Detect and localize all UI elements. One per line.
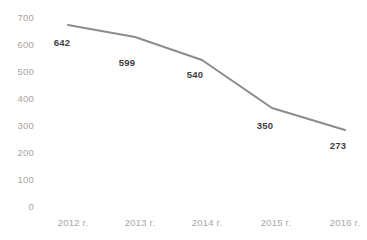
data-label: 273 (330, 140, 346, 151)
data-label: 540 (187, 69, 203, 80)
x-tick-label: 2015 r. (261, 217, 291, 228)
data-series-line (68, 25, 345, 130)
x-tick-label: 2016 r. (330, 217, 360, 228)
data-label: 599 (119, 57, 135, 68)
x-tick-label: 2013 r. (125, 217, 155, 228)
x-tick-label: 2012 r. (58, 217, 88, 228)
line-chart: 700 600 500 400 300 200 100 0 642 599 54… (0, 0, 367, 240)
data-label: 350 (257, 120, 273, 131)
x-tick-label: 2014 r. (192, 217, 222, 228)
data-label: 642 (54, 37, 70, 48)
